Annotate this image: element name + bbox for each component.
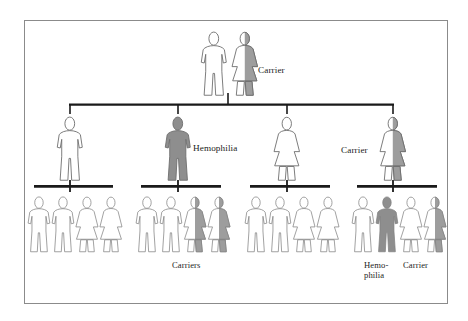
individual-g1-father[interactable]	[201, 32, 226, 95]
pedigree-diagram: Carrier Hemophilia Carrier Carriers Hemo…	[0, 0, 468, 321]
sibship-1-group	[28, 197, 122, 252]
generation-1-group	[201, 32, 257, 95]
label-g1-mother-carrier: Carrier	[258, 66, 285, 76]
individual-g2-1[interactable]	[57, 117, 82, 180]
individual-g1-mother[interactable]	[232, 32, 257, 95]
sibship-2-group	[136, 197, 230, 252]
individual-g3-1-4[interactable]	[100, 197, 122, 252]
individual-g3-2-2[interactable]	[160, 197, 182, 252]
individual-g3-3-2[interactable]	[269, 197, 291, 252]
individual-g3-2-1[interactable]	[136, 197, 158, 252]
individual-g2-2[interactable]	[165, 117, 190, 180]
individual-g3-1-3[interactable]	[76, 197, 98, 252]
individual-g2-4[interactable]	[380, 117, 405, 180]
individual-g3-2-3[interactable]	[184, 197, 206, 252]
label-hemophilia-line2: philia	[364, 270, 384, 280]
label-g3-4-2-hemophilia: Hemo-philia	[364, 261, 398, 280]
label-g2-carrier: Carrier	[341, 146, 368, 156]
label-g3-4-4-carrier: Carrier	[403, 261, 428, 270]
sibship-3-group	[245, 197, 339, 252]
individual-g2-3[interactable]	[274, 117, 299, 180]
individual-g3-4-3[interactable]	[400, 197, 422, 252]
individual-g3-1-1[interactable]	[28, 197, 50, 252]
label-g2-hemophilia: Hemophilia	[193, 144, 237, 154]
individual-g3-1-2[interactable]	[52, 197, 74, 252]
label-sibship-2-carriers: Carriers	[172, 261, 200, 270]
individual-g3-2-4[interactable]	[208, 197, 230, 252]
individual-g3-3-1[interactable]	[245, 197, 267, 252]
individual-g3-4-1[interactable]	[352, 197, 374, 252]
individual-g3-4-4[interactable]	[424, 197, 446, 252]
individual-g3-4-2[interactable]	[376, 197, 398, 252]
label-hemophilia-line1: Hemo-	[364, 260, 388, 270]
individual-g3-3-3[interactable]	[293, 197, 315, 252]
individual-g3-3-4[interactable]	[317, 197, 339, 252]
sibship-4-group	[352, 197, 446, 252]
